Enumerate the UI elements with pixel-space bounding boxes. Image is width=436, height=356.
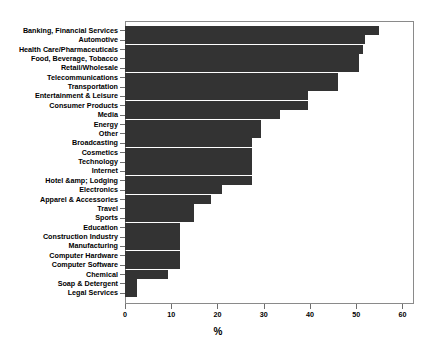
- bar-row: [125, 120, 261, 129]
- bars-container: [125, 21, 414, 304]
- bar: [125, 232, 180, 241]
- category-label: Electronics: [79, 185, 118, 194]
- category-label: Hotel &amp; Lodging: [45, 176, 118, 185]
- bar-chart: Banking, Financial ServicesAutomotiveHea…: [0, 0, 436, 356]
- bar: [125, 213, 194, 222]
- bar: [125, 251, 180, 260]
- category-label: Media: [98, 110, 118, 119]
- bar-row: [125, 91, 308, 100]
- bar: [125, 35, 365, 44]
- bar-row: [125, 223, 180, 232]
- category-label: Food, Beverage, Tobacco: [31, 54, 118, 63]
- category-label: Transportation: [68, 82, 118, 91]
- category-label: Computer Hardware: [49, 251, 118, 260]
- bar: [125, 176, 252, 185]
- category-label: Construction Industry: [43, 232, 118, 241]
- x-axis-tick-label: 0: [123, 310, 127, 319]
- x-axis-tick: [171, 304, 172, 309]
- category-label: Other: [99, 129, 118, 138]
- bar-row: [125, 213, 194, 222]
- bar-row: [125, 63, 359, 72]
- category-label: Legal Services: [68, 288, 118, 297]
- category-label: Energy: [94, 120, 118, 129]
- x-axis-tick: [264, 304, 265, 309]
- bar: [125, 129, 261, 138]
- category-label: Manufacturing: [68, 241, 118, 250]
- category-axis-labels: Banking, Financial ServicesAutomotiveHea…: [0, 21, 125, 304]
- bar: [125, 185, 222, 194]
- bar-row: [125, 157, 252, 166]
- bar-row: [125, 148, 252, 157]
- bar-row: [125, 166, 252, 175]
- x-axis-tick-label: 40: [306, 310, 314, 319]
- bar: [125, 120, 261, 129]
- bar: [125, 223, 180, 232]
- bar-row: [125, 35, 365, 44]
- category-label: Computer Software: [52, 260, 118, 269]
- bar: [125, 260, 180, 269]
- bar: [125, 157, 252, 166]
- category-label: Health Care/Pharmaceuticals: [19, 45, 118, 54]
- bar-row: [125, 288, 137, 297]
- bar: [125, 166, 252, 175]
- bar-row: [125, 204, 194, 213]
- category-label: Internet: [92, 166, 118, 175]
- category-label: Apparel & Accessories: [40, 195, 118, 204]
- bar-row: [125, 110, 280, 119]
- category-label: Automotive: [78, 35, 118, 44]
- category-label: Cosmetics: [82, 148, 118, 157]
- x-axis-tick: [356, 304, 357, 309]
- bar: [125, 110, 280, 119]
- bar: [125, 73, 338, 82]
- bar: [125, 279, 137, 288]
- bar: [125, 63, 359, 72]
- x-axis-tick-label: 30: [260, 310, 268, 319]
- bar-row: [125, 45, 363, 54]
- bar-row: [125, 185, 222, 194]
- category-label: Entertainment & Leisure: [35, 91, 118, 100]
- category-label: Education: [83, 223, 118, 232]
- category-label: Travel: [97, 204, 118, 213]
- bar-row: [125, 138, 252, 147]
- category-label: Retail/Wholesale: [61, 63, 118, 72]
- bar: [125, 91, 308, 100]
- category-label: Soap & Detergent: [58, 279, 118, 288]
- bar-row: [125, 26, 379, 35]
- bar-row: [125, 73, 338, 82]
- category-label: Technology: [78, 157, 118, 166]
- x-axis-tick-label: 50: [352, 310, 360, 319]
- x-axis-title: %: [0, 326, 436, 337]
- x-axis-tick-label: 10: [167, 310, 175, 319]
- bar-row: [125, 232, 180, 241]
- bar-row: [125, 101, 308, 110]
- bar: [125, 54, 359, 63]
- bar-row: [125, 241, 180, 250]
- x-axis-tick: [402, 304, 403, 309]
- bar-row: [125, 270, 168, 279]
- category-label: Banking, Financial Services: [23, 26, 118, 35]
- bar-row: [125, 129, 261, 138]
- category-label: Sports: [95, 213, 118, 222]
- bar: [125, 26, 379, 35]
- bar-row: [125, 251, 180, 260]
- category-label: Consumer Products: [49, 101, 118, 110]
- category-label: Broadcasting: [72, 138, 118, 147]
- bar: [125, 148, 252, 157]
- bar-row: [125, 54, 359, 63]
- x-axis-tick-label: 20: [213, 310, 221, 319]
- bar-row: [125, 82, 338, 91]
- bar-row: [125, 260, 180, 269]
- bar-row: [125, 195, 211, 204]
- bar: [125, 82, 338, 91]
- bar: [125, 138, 252, 147]
- x-axis-tick: [125, 304, 126, 309]
- category-label: Telecommunications: [47, 73, 118, 82]
- bar: [125, 101, 308, 110]
- bar-row: [125, 279, 137, 288]
- bar: [125, 241, 180, 250]
- bar-row: [125, 176, 252, 185]
- x-axis-tick: [217, 304, 218, 309]
- x-axis-tick-label: 60: [398, 310, 406, 319]
- bar: [125, 288, 137, 297]
- bar: [125, 270, 168, 279]
